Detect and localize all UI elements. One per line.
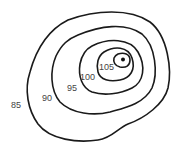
contour-label-90: 90 <box>42 93 52 103</box>
contour-label-100: 100 <box>80 72 95 82</box>
contour-label-85: 85 <box>11 100 21 110</box>
contour-label-95: 95 <box>67 83 77 93</box>
contour-map: 85 90 95 100 105 <box>0 0 182 149</box>
summit-marker-icon <box>121 58 125 62</box>
contour-line-85 <box>27 12 169 141</box>
contour-label-105: 105 <box>99 62 114 72</box>
